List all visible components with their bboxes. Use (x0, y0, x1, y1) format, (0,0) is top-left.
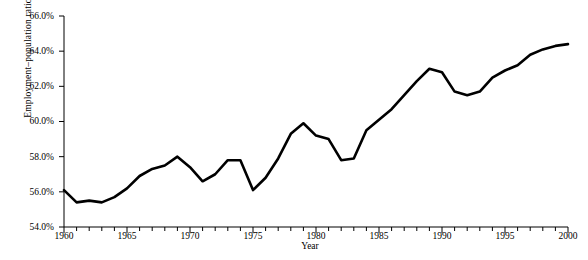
axis-lines (64, 16, 568, 227)
x-axis-ticks (64, 227, 568, 233)
plot-area (0, 0, 588, 260)
y-axis-ticks (59, 16, 64, 227)
chart-figure: Employment–population ratio 66.0% 64.0% … (0, 0, 588, 260)
data-line-employment-population-ratio (64, 44, 568, 202)
